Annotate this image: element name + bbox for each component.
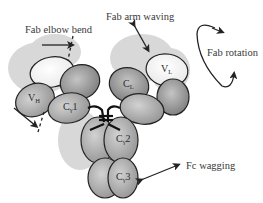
fc-wagging-label: Fc wagging bbox=[186, 161, 235, 172]
fab-rotation-label: Fab rotation bbox=[207, 48, 258, 59]
antibody-flexibility-diagram: Fab elbow bend Fab arm waving Fab rotati… bbox=[0, 0, 263, 203]
fab-elbow-bend-label: Fab elbow bend bbox=[25, 25, 92, 36]
fc-region bbox=[81, 117, 138, 198]
domain-cg2-label: Cγ2 bbox=[116, 134, 131, 146]
domain-cg3-label: Cγ3 bbox=[116, 172, 131, 184]
fab-arm-waving-label: Fab arm waving bbox=[106, 12, 174, 23]
domain-cg1-label: Cγ1 bbox=[63, 102, 78, 114]
fc-wagging-arrow bbox=[141, 165, 178, 180]
domain-vh-label: VH bbox=[28, 93, 40, 105]
domain-vl-label: VL bbox=[161, 64, 172, 76]
domain-cl-label: CL bbox=[123, 79, 134, 91]
